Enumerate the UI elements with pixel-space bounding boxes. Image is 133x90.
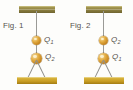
upper-string [103, 11, 104, 37]
lower-charge-label: Q1 [112, 52, 121, 61]
upper-charged-sphere [99, 36, 108, 45]
upper-charge-symbol: Q [111, 35, 117, 44]
ceiling-support-bar [19, 6, 55, 13]
floor-support-bar [84, 77, 124, 84]
upper-charge-subscript: 2 [118, 39, 121, 45]
lower-charge-symbol: Q [112, 52, 118, 61]
lower-charge-symbol: Q [45, 52, 51, 61]
upper-string [36, 11, 37, 37]
figure-caption-2: Fig. 2 [70, 21, 91, 30]
upper-charged-sphere [32, 36, 41, 45]
lower-charge-subscript: 2 [52, 56, 55, 62]
upper-charge-subscript: 1 [51, 39, 54, 45]
lower-charge-subscript: 1 [119, 56, 122, 62]
floor-support-bar [17, 77, 57, 84]
ceiling-support-bar [86, 6, 122, 13]
lower-charge-label: Q2 [45, 52, 54, 61]
figure-caption-1: Fig. 1 [3, 21, 24, 30]
upper-charge-label: Q2 [111, 35, 120, 44]
upper-charge-label: Q1 [44, 35, 53, 44]
physics-figure-pair: Q1 Q2 Fig. 1 Q2 Q1 Fig. 2 [0, 0, 133, 90]
figure-panel-2: Q2 Q1 Fig. 2 [67, 0, 133, 90]
upper-charge-symbol: Q [44, 35, 50, 44]
figure-panel-1: Q1 Q2 Fig. 1 [0, 0, 66, 90]
